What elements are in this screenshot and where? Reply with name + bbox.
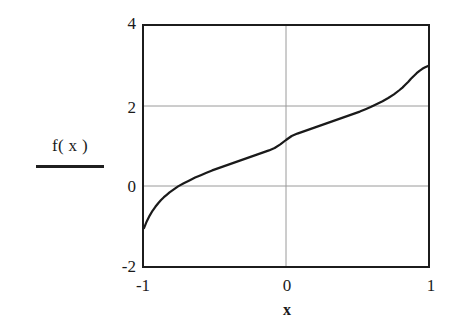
x-tick-label-minus-1: -1 <box>123 277 163 294</box>
y-axis-label: f( x ) <box>22 136 118 156</box>
y-tick-label-minus-2: -2 <box>100 258 136 275</box>
gridlines <box>144 26 428 266</box>
x-tick-label-1: 1 <box>411 277 451 294</box>
legend-line-swatch <box>36 165 104 168</box>
x-tick-label-0: 0 <box>267 277 307 294</box>
x-axis-title: x <box>267 302 307 318</box>
y-tick-label-2: 2 <box>104 99 136 116</box>
y-tick-label-4: 4 <box>104 15 136 32</box>
chart-figure: f( x ) 4 2 0 -2 -1 0 1 x <box>0 0 458 329</box>
y-tick-label-0: 0 <box>104 178 136 195</box>
plot-area <box>142 24 430 268</box>
plot-canvas <box>144 26 428 266</box>
y-axis-legend: f( x ) <box>22 136 118 168</box>
